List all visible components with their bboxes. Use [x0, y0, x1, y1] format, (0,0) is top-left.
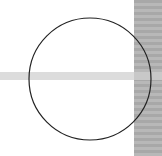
canvas: [0, 0, 162, 156]
circle-overlay: [0, 0, 162, 156]
circle-outline-icon: [29, 18, 151, 140]
